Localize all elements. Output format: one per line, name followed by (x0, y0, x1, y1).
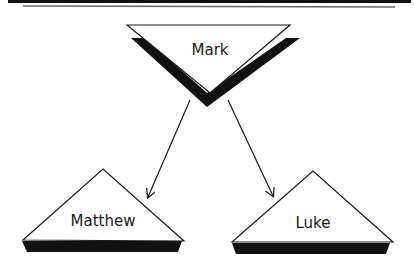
edges (148, 100, 273, 197)
luke-label: Luke (296, 214, 331, 232)
diagram-canvas: Mark Matthew Luke (0, 0, 414, 268)
sub-rule (23, 6, 395, 7)
node-luke: Luke (232, 171, 393, 254)
arrow-mark-to-matthew (148, 100, 190, 197)
mark-label: Mark (192, 41, 229, 59)
header-rules (8, 0, 411, 7)
arrow-mark-to-luke (228, 100, 273, 196)
matthew-shadow (22, 241, 182, 252)
node-mark: Mark (127, 25, 300, 107)
node-matthew: Matthew (22, 169, 184, 252)
matthew-triangle (23, 169, 184, 241)
luke-shadow (232, 243, 390, 254)
matthew-label: Matthew (71, 212, 136, 230)
top-rule (8, 0, 411, 3)
